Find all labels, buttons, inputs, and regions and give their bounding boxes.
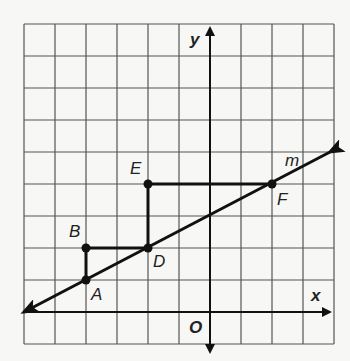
- point-E: [144, 180, 153, 189]
- label-y-axis: y: [189, 30, 201, 49]
- point-B: [82, 244, 91, 253]
- point-D: [144, 244, 153, 253]
- label-F: F: [277, 190, 289, 209]
- label-A: A: [90, 285, 102, 304]
- label-origin: O: [189, 318, 202, 337]
- label-x-axis: x: [310, 286, 322, 305]
- label-E: E: [130, 159, 142, 178]
- label-B: B: [69, 222, 80, 241]
- point-F: [268, 180, 277, 189]
- label-D: D: [153, 252, 165, 271]
- label-line-m: m: [285, 151, 299, 170]
- coordinate-diagram: A B D E F m x y O: [0, 0, 350, 361]
- point-A: [82, 276, 91, 285]
